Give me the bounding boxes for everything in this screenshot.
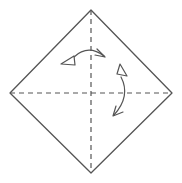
origami-diagram [0,0,182,183]
vertical-fold-arrow [113,64,127,116]
vertical-fold-arrowhead-triangle-icon [117,64,127,76]
diagram-canvas [0,0,182,183]
horizontal-fold-arrowhead-triangle-icon [61,56,75,65]
horizontal-fold-arrow [61,49,105,65]
